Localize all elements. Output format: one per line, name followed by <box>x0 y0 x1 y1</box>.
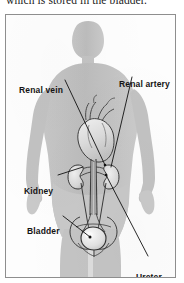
label-ureter: Ureter <box>136 273 162 278</box>
urinary-system-diagram <box>6 15 175 277</box>
figure-frame: Renal vein Renal artery Kidney Bladder U… <box>5 14 176 278</box>
label-kidney: Kidney <box>24 187 53 196</box>
label-renal-vein: Renal vein <box>19 86 63 95</box>
label-bladder: Bladder <box>27 227 60 236</box>
caption-text: which is stored in the bladder. <box>6 0 147 6</box>
label-renal-artery: Renal artery <box>119 80 170 89</box>
caption-strip: which is stored in the bladder. <box>0 0 184 13</box>
